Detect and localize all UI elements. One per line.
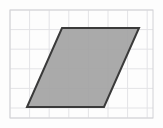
parallelogram-grid-figure xyxy=(0,0,163,128)
figure-container: Parallelogram on grid xyxy=(0,0,163,128)
